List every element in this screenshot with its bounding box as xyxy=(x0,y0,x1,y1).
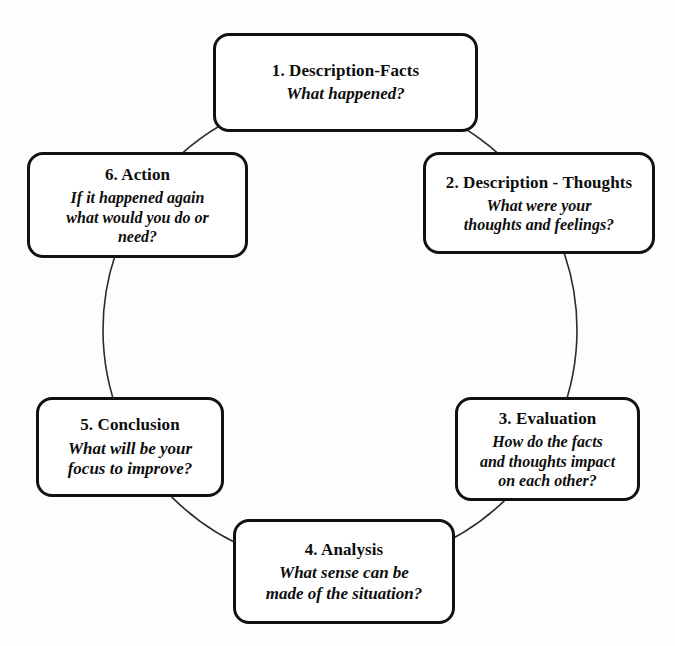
node-title: 1. Description-Facts xyxy=(272,60,419,81)
node-question-line: on each other? xyxy=(480,471,615,490)
node-question-line: what would you do or xyxy=(66,208,208,227)
node-question-line: If it happened again xyxy=(66,188,208,207)
node-question: What will be your focus to improve? xyxy=(68,439,193,480)
node-description-thoughts[interactable]: 2. Description - Thoughts What were your… xyxy=(423,152,655,254)
node-evaluation[interactable]: 3. Evaluation How do the facts and thoug… xyxy=(455,397,640,501)
node-question: If it happened again what would you do o… xyxy=(66,188,208,246)
node-question-line: thoughts and feelings? xyxy=(464,215,614,234)
node-title: 2. Description - Thoughts xyxy=(446,172,632,193)
node-question-line: focus to improve? xyxy=(68,459,193,479)
node-conclusion[interactable]: 5. Conclusion What will be your focus to… xyxy=(36,397,224,497)
node-title: 5. Conclusion xyxy=(80,414,180,435)
node-analysis[interactable]: 4. Analysis What sense can be made of th… xyxy=(233,519,455,624)
node-question-line: What happened? xyxy=(286,84,405,104)
node-title: 3. Evaluation xyxy=(499,408,597,429)
node-question-line: What sense can be xyxy=(266,563,422,583)
node-action[interactable]: 6. Action If it happened again what woul… xyxy=(27,152,248,258)
node-question: What were your thoughts and feelings? xyxy=(464,196,614,234)
node-question-line: What will be your xyxy=(68,439,193,459)
node-question: How do the facts and thoughts impact on … xyxy=(480,432,615,490)
node-question-line: What were your xyxy=(464,196,614,215)
reflective-cycle-diagram: 1. Description-Facts What happened? 2. D… xyxy=(0,0,675,646)
node-description-facts[interactable]: 1. Description-Facts What happened? xyxy=(213,33,478,132)
node-title: 6. Action xyxy=(105,164,170,185)
node-title: 4. Analysis xyxy=(305,539,384,560)
node-question-line: How do the facts xyxy=(480,432,615,451)
node-question: What sense can be made of the situation? xyxy=(266,563,422,604)
node-question-line: need? xyxy=(66,227,208,246)
node-question: What happened? xyxy=(286,84,405,104)
node-question-line: and thoughts impact xyxy=(480,452,615,471)
node-question-line: made of the situation? xyxy=(266,584,422,604)
